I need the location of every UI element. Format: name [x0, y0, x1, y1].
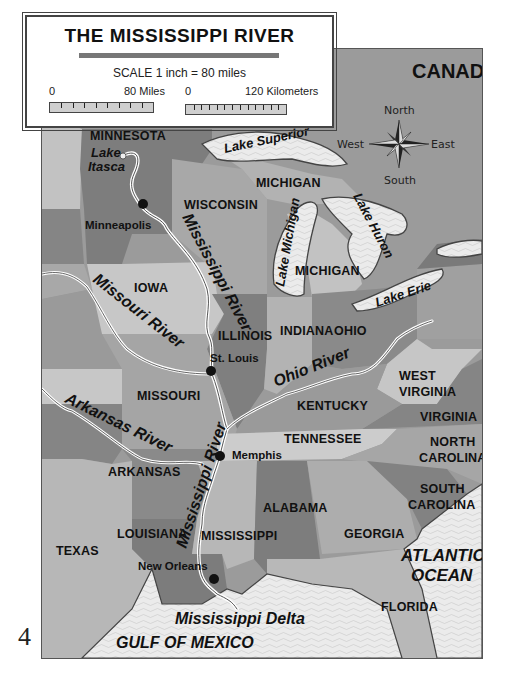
scale-tick — [271, 105, 272, 110]
km-scale-start: 0 — [185, 85, 191, 97]
km-scale-bar — [185, 104, 287, 115]
memphis-label: Memphis — [232, 449, 282, 461]
scale-tick — [84, 103, 85, 108]
north-carolina-label-2: CAROLINA — [419, 451, 482, 465]
south-dakota-region — [42, 209, 84, 264]
mississippi-label: MISSISSIPPI — [201, 529, 278, 543]
scale-text: SCALE 1 inch = 80 miles — [27, 66, 332, 80]
scale-tick — [248, 105, 249, 110]
minneapolis-label: Minneapolis — [85, 219, 151, 231]
atlantic-label-2: OCEAN — [411, 566, 473, 585]
missouri-label: MISSOURI — [137, 389, 200, 403]
scale-tick — [209, 105, 210, 110]
scale-tick — [142, 103, 143, 108]
map-title: THE MISSISSIPPI RIVER — [27, 25, 332, 47]
scale-tick — [73, 103, 74, 108]
scale-tick — [240, 105, 241, 110]
scale-tick — [217, 105, 218, 110]
compass-south-label: South — [384, 174, 416, 187]
scale-tick — [119, 103, 120, 108]
map: CANADA MINNESOTA WISCONSIN MICHIGAN MICH… — [41, 48, 483, 659]
new-orleans-marker — [209, 574, 219, 584]
title-underline — [79, 53, 279, 58]
compass-north-label: North — [384, 104, 415, 117]
scale-tick — [130, 103, 131, 108]
miles-scale-bar — [49, 102, 154, 113]
iowa-label: IOWA — [134, 281, 168, 295]
compass-east-label: East — [431, 138, 455, 151]
minneapolis-marker — [138, 199, 148, 209]
scale-tick — [278, 105, 279, 110]
kentucky-label: KENTUCKY — [297, 399, 369, 413]
st-louis-marker — [206, 366, 216, 376]
km-scale-end: 120 Kilometers — [245, 85, 318, 97]
north-dakota-region — [42, 124, 82, 209]
michigan-upper-label: MICHIGAN — [256, 176, 321, 190]
west-virginia-label-1: WEST — [399, 369, 436, 383]
ohio-label: OHIO — [334, 324, 367, 338]
arkansas-label: ARKANSAS — [108, 465, 180, 479]
scale-tick — [61, 103, 62, 108]
miles-scale-start: 0 — [49, 85, 55, 97]
scale-tick — [263, 105, 264, 110]
map-canvas: CANADA MINNESOTA WISCONSIN MICHIGAN MICH… — [42, 49, 482, 658]
scale-tick — [194, 105, 195, 110]
georgia-label: GEORGIA — [344, 527, 404, 541]
michigan-lower-label: MICHIGAN — [295, 264, 360, 278]
mississippi-delta-label: Mississippi Delta — [175, 610, 305, 627]
north-carolina-label-1: NORTH — [430, 435, 475, 449]
west-virginia-label-2: VIRGINIA — [399, 385, 456, 399]
indiana-label: INDIANA — [280, 324, 333, 338]
scale-tick — [224, 105, 225, 110]
scale-tick — [255, 105, 256, 110]
virginia-label: VIRGINIA — [420, 410, 477, 424]
minnesota-label: MINNESOTA — [90, 129, 166, 143]
new-orleans-label: New Orleans — [138, 560, 208, 572]
st-louis-label: St. Louis — [210, 352, 259, 364]
lake-itasca-label-2: Itasca — [88, 159, 125, 174]
atlantic-label-1: ATLANTIC — [400, 546, 482, 565]
compass-west-label: West — [337, 138, 365, 151]
south-carolina-label-2: CAROLINA — [408, 498, 476, 512]
canada-label: CANADA — [412, 60, 482, 82]
scale-tick — [201, 105, 202, 110]
title-legend-box: THE MISSISSIPPI RIVER SCALE 1 inch = 80 … — [25, 15, 334, 128]
alabama-label: ALABAMA — [263, 501, 328, 515]
scale-tick — [232, 105, 233, 110]
florida-label: FLORIDA — [381, 600, 438, 614]
page-number: 4 — [18, 622, 31, 652]
scale-tick — [96, 103, 97, 108]
south-carolina-label-1: SOUTH — [420, 482, 465, 496]
tennessee-label: TENNESSEE — [284, 432, 362, 446]
miles-scale-end: 80 Miles — [124, 85, 165, 97]
lake-itasca-label-1: Lake — [91, 145, 121, 160]
texas-label: TEXAS — [56, 544, 99, 558]
gulf-of-mexico-label: GULF OF MEXICO — [116, 634, 254, 651]
scale-tick — [107, 103, 108, 108]
